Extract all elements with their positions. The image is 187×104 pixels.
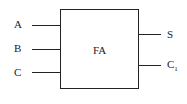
- output-s-label: S: [167, 29, 173, 40]
- input-c-line: [32, 72, 60, 73]
- output-c1-label: C1: [167, 59, 178, 75]
- input-c-label: C: [14, 67, 21, 78]
- input-a-line: [32, 25, 60, 26]
- input-b-label: B: [14, 43, 21, 54]
- input-b-line: [32, 49, 60, 50]
- block-label: FA: [60, 45, 139, 56]
- output-c1-line: [139, 65, 161, 66]
- output-s-line: [139, 34, 161, 35]
- input-a-label: A: [14, 19, 22, 30]
- output-c1-subscript: 1: [174, 65, 178, 73]
